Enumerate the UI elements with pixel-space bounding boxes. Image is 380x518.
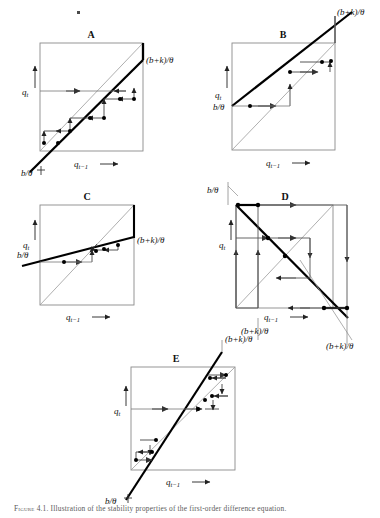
panel-c-x-axis-label: qt−1 xyxy=(66,312,110,323)
panel-e-map-line xyxy=(126,352,222,500)
panel-a-diagonal-45 xyxy=(40,43,143,151)
svg-text:qt: qt xyxy=(215,90,222,101)
panel-c-bk-theta-label: (b+k)/θ xyxy=(137,235,165,245)
panel-d-x-axis-label: qt−1 xyxy=(264,312,308,323)
panel-c-b-theta-label: b/θ xyxy=(17,250,29,260)
panel-b-y-axis-label: qt xyxy=(215,66,227,101)
panel-d-map-extension-top xyxy=(228,186,238,196)
svg-text:qt: qt xyxy=(219,240,226,251)
svg-text:qt−1: qt−1 xyxy=(264,312,278,323)
panel-d-y-axis-label: qt xyxy=(219,220,231,251)
panel-b-map-line xyxy=(232,12,352,106)
svg-text:qt: qt xyxy=(22,87,29,98)
panel-a-x-axis-label: qt−1 xyxy=(74,159,118,170)
panel-e-bk-theta-label: (b+k)/θ xyxy=(225,334,253,344)
panel-e-x-axis-label: qt−1 xyxy=(166,477,210,488)
svg-text:qt: qt xyxy=(114,406,121,417)
panel-d-b-theta-label: b/θ xyxy=(207,185,219,195)
panel-e-diagonal-45 xyxy=(131,367,235,470)
panel-e: E (b+k)/θ b/θ qt qt−1 xyxy=(105,334,253,506)
svg-text:qt−1: qt−1 xyxy=(74,159,88,170)
panel-c-letter: C xyxy=(83,191,90,202)
svg-text:qt−1: qt−1 xyxy=(166,477,180,488)
panel-a-letter: A xyxy=(87,29,95,40)
panel-b-cobweb xyxy=(250,62,332,106)
panel-a: A (b+k)/θ b/θ qt qt−1 xyxy=(21,29,174,178)
panel-b-b-theta-label: b/θ xyxy=(213,102,225,112)
panel-b-bk-theta-label: (b+k)/θ xyxy=(337,7,365,17)
svg-text:qt−1: qt−1 xyxy=(266,158,280,169)
panel-c-diagonal-45 xyxy=(40,205,134,305)
panel-a-y-axis-label: qt xyxy=(22,66,35,98)
figure-number: Figure 4.1. xyxy=(14,504,49,513)
panel-d-map-extension-bottom xyxy=(300,260,352,340)
figure-canvas: A (b+k)/θ b/θ qt qt−1 xyxy=(0,0,380,518)
panel-d: D b/θ (b+k)/θ (b+k)/θ qt qt−1 xyxy=(207,182,354,351)
panel-d-letter: D xyxy=(281,191,288,202)
svg-text:qt: qt xyxy=(23,240,30,251)
panel-e-letter: E xyxy=(173,353,180,364)
panel-c-y-axis-label: qt xyxy=(23,220,35,251)
panel-a-bk-theta-label: (b+k)/θ xyxy=(146,55,174,65)
svg-text:qt−1: qt−1 xyxy=(66,312,80,323)
figure-caption-text: Illustration of the stability properties… xyxy=(51,504,287,513)
panel-d-map-line xyxy=(236,205,348,318)
panel-b-diagonal-45 xyxy=(232,43,335,150)
figure-caption: Figure 4.1. Illustration of the stabilit… xyxy=(0,504,380,518)
panel-d-points xyxy=(236,203,349,310)
panel-a-points xyxy=(42,97,136,145)
panel-d-bk-theta-label-right: (b+k)/θ xyxy=(326,341,354,351)
panel-b-x-axis-label: qt−1 xyxy=(266,158,310,169)
panel-c: C (b+k)/θ b/θ qt qt−1 xyxy=(17,191,165,323)
panel-e-points xyxy=(134,373,228,462)
panel-b-letter: B xyxy=(280,29,287,40)
panel-b: B (b+k)/θ b/θ qt qt−1 xyxy=(213,7,365,169)
panel-e-y-axis-label: qt xyxy=(114,386,126,417)
panel-a-b-theta-label: b/θ xyxy=(21,168,33,178)
panel-a-cobweb xyxy=(44,88,134,143)
panel-a-map-line xyxy=(30,60,143,172)
